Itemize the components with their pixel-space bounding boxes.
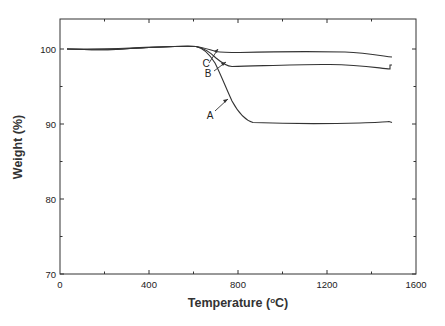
x-axis-ticks [105,19,372,274]
y-tick-label: 100 [40,44,56,55]
curve-b [67,46,392,69]
curve-label-a: A [207,110,214,121]
y-tick-label: 90 [45,119,56,130]
curve-a [67,46,392,123]
plot-frame [60,19,416,274]
x-axis-title: Temperature (oC) [188,296,289,311]
curve-label-b: B [205,68,212,79]
y-tick-label: 70 [45,269,56,280]
y-axis-title: Weight (%) [11,115,25,179]
curve-c [67,46,392,57]
x-tick-label: 400 [141,279,157,290]
x-tick-label: 1600 [405,279,426,290]
annotations: C B A [202,49,228,121]
x-tick-label: 800 [230,279,246,290]
y-axis-ticks [60,49,416,274]
y-tick-label: 80 [45,194,56,205]
x-tick-label: 0 [57,279,62,290]
x-tick-label: 1200 [316,279,337,290]
curves [67,46,392,123]
tga-chart: 100 90 80 70 0 400 800 1200 1600 Tempera… [0,0,445,326]
